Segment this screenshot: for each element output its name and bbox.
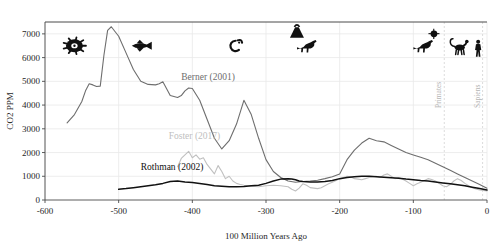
co2-history-chart: PrimatesSapiens 010002000300040005000600… <box>0 0 498 248</box>
fish-icon <box>132 40 152 52</box>
x-axis-title: 100 Million Years Ago <box>225 231 308 241</box>
trilobite-icon <box>64 37 86 54</box>
series-label-rothman: Rothman (2002) <box>141 162 204 173</box>
series-line-foster <box>178 151 487 191</box>
series-label-berner: Berner (2001) <box>181 72 235 83</box>
axes <box>42 22 487 203</box>
chart-canvas: PrimatesSapiens 010002000300040005000600… <box>0 0 498 248</box>
y-axis-title: CO2 PPM <box>5 92 15 129</box>
x-tick-label: -300 <box>258 206 275 216</box>
y-tick-label: 4000 <box>22 100 41 110</box>
x-tick-label: -600 <box>37 206 54 216</box>
x-tick-label: -200 <box>331 206 348 216</box>
y-tick-label: 0 <box>36 195 41 205</box>
x-tick-label: 0 <box>485 206 490 216</box>
primate-icon <box>450 39 468 55</box>
series-labels: Berner (2001)Foster (2017)Rothman (2002) <box>141 72 235 172</box>
x-tick-label: -400 <box>184 206 201 216</box>
series-label-foster: Foster (2017) <box>169 131 220 142</box>
gridlines <box>45 22 487 200</box>
meteor-icon <box>428 29 439 39</box>
y-tick-label: 6000 <box>22 53 41 63</box>
human-icon <box>475 40 481 57</box>
y-tick-label: 2000 <box>22 148 41 158</box>
y-tick-label: 3000 <box>22 124 41 134</box>
series-line-rothman <box>119 176 487 190</box>
era-icons <box>64 25 482 57</box>
tick-labels: 01000200030004000500060007000-600-500-40… <box>22 29 490 216</box>
event-label-primates: Primates <box>434 82 443 108</box>
dinosaur-late-icon <box>413 40 433 52</box>
y-tick-label: 1000 <box>22 171 41 181</box>
x-tick-label: -100 <box>405 206 422 216</box>
y-tick-label: 5000 <box>22 76 41 86</box>
dinosaur-icon <box>297 40 317 52</box>
volcano-icon <box>290 25 304 38</box>
x-tick-label: -500 <box>110 206 127 216</box>
amphibian-icon <box>230 40 242 51</box>
event-label-sapiens: Sapiens <box>473 85 482 108</box>
y-tick-label: 7000 <box>22 29 41 39</box>
